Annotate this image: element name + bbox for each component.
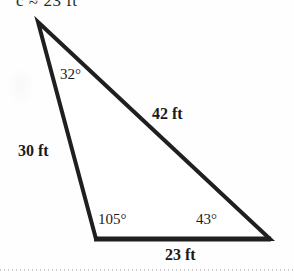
dotted-line-artifact — [0, 269, 294, 271]
triangle-shape — [0, 0, 294, 280]
geometry-figure: c ≈ 23 ft 32° 105° 43° 30 ft 42 ft 23 ft — [0, 0, 294, 280]
angle-label-bottom-right: 43° — [196, 212, 217, 227]
side-label-left: 30 ft — [18, 143, 49, 159]
angle-label-bottom-left: 105° — [98, 212, 127, 227]
side-label-base: 23 ft — [165, 247, 196, 263]
angle-label-apex: 32° — [60, 67, 81, 82]
triangle-outline — [38, 22, 270, 239]
side-label-hypotenuse: 42 ft — [152, 106, 183, 122]
